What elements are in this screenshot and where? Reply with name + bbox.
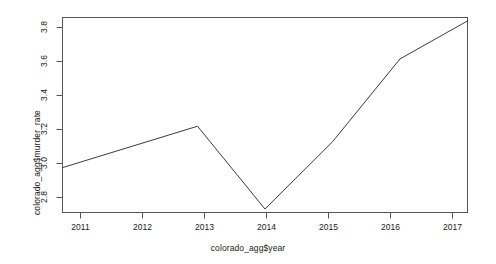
x-tick-label-2017: 2017 [433, 222, 473, 232]
x-axis-ticks [81, 213, 453, 219]
y-tick-label-3-2: 3.2 [39, 117, 49, 141]
plot-frame [63, 18, 468, 213]
x-tick-label-2016: 2016 [371, 222, 411, 232]
x-tick-label-2014: 2014 [247, 222, 287, 232]
y-tick-label-2-8: 2.8 [39, 185, 49, 209]
y-tick-label-3-0: 3.0 [39, 151, 49, 175]
data-line-series [63, 21, 468, 209]
y-tick-label-3-8: 3.8 [39, 15, 49, 39]
y-tick-label-3-4: 3.4 [39, 83, 49, 107]
chart-figure: colorado_agg$year colorado_agg$murder_ra… [0, 0, 496, 264]
x-axis-title: colorado_agg$year [0, 243, 496, 253]
y-axis-ticks [57, 28, 63, 198]
y-tick-label-3-6: 3.6 [39, 49, 49, 73]
x-tick-label-2011: 2011 [61, 222, 101, 232]
x-tick-label-2013: 2013 [185, 222, 225, 232]
x-tick-label-2012: 2012 [123, 222, 163, 232]
x-tick-label-2015: 2015 [309, 222, 349, 232]
